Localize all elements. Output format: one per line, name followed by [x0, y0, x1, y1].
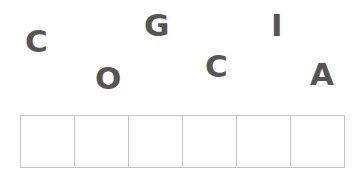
- answer-slot-3[interactable]: [129, 116, 183, 167]
- letter-tile-g[interactable]: G: [144, 10, 169, 41]
- answer-slot-2[interactable]: [75, 116, 129, 167]
- letter-tile-a[interactable]: A: [310, 59, 334, 90]
- answer-slot-5[interactable]: [237, 116, 291, 167]
- letter-tile-i[interactable]: I: [271, 10, 283, 41]
- answer-slot-4[interactable]: [183, 116, 237, 167]
- answer-slots: [20, 115, 345, 168]
- answer-slot-6[interactable]: [291, 116, 344, 167]
- answer-slot-1[interactable]: [21, 116, 75, 167]
- letter-tile-c-1[interactable]: C: [25, 26, 48, 57]
- letter-tile-o[interactable]: O: [95, 63, 121, 94]
- letter-tile-c-2[interactable]: C: [205, 51, 228, 82]
